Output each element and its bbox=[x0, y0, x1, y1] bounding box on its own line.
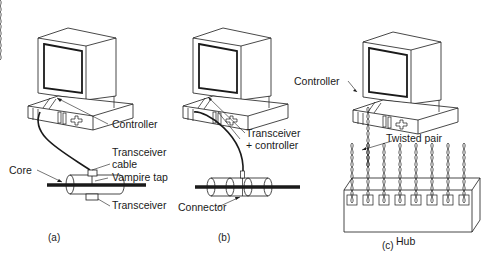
panel-b bbox=[183, 28, 300, 207]
label-hub: Hub bbox=[396, 236, 415, 247]
caption-c: (c) bbox=[382, 240, 394, 251]
vampire-tap bbox=[88, 170, 97, 176]
caption-a: (a) bbox=[48, 232, 60, 243]
label-transceiver-cable-line2: cable bbox=[112, 159, 137, 170]
label-controller-a: Controller bbox=[112, 119, 158, 130]
label-transceiver: Transceiver bbox=[112, 200, 166, 211]
label-core: Core bbox=[9, 165, 32, 176]
label-controller-c: Controller bbox=[294, 76, 340, 87]
computer-icon bbox=[28, 28, 133, 130]
label-twisted-pair: Twisted pair bbox=[386, 133, 442, 144]
diagram-canvas bbox=[0, 0, 484, 253]
label-transceiver-controller-line1: Transceiver bbox=[246, 128, 300, 139]
caption-b: (b) bbox=[218, 232, 230, 243]
transceiver-box bbox=[86, 194, 98, 200]
label-transceiver-controller-line2: + controller bbox=[246, 140, 298, 151]
label-transceiver-cable-line1: Transceiver bbox=[112, 147, 166, 158]
computer-icon bbox=[183, 28, 288, 130]
label-connector: Connector bbox=[178, 202, 226, 213]
label-vampire-tap: Vampire tap bbox=[112, 172, 168, 183]
computer-icon bbox=[353, 32, 458, 134]
